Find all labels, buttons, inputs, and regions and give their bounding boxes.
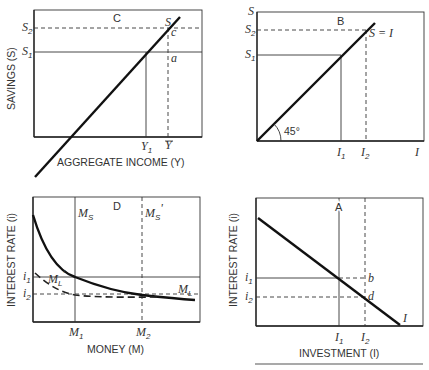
m2-tick-label: M2: [135, 325, 151, 341]
investment-curve-label: I: [402, 311, 408, 325]
angle-arc: [274, 124, 281, 141]
i2-tick-label: i2: [245, 289, 253, 305]
i-axis-end-label: I: [414, 145, 420, 159]
ybar-tick-label: Y: [165, 138, 173, 152]
four-quadrant-diagram: C S c a S2 S1 Y1 Y AGGREGATE INCOME (Y) …: [0, 0, 429, 370]
ml-prime-label: ML': [47, 267, 65, 288]
x-axis-label-investment: INVESTMENT (I): [299, 347, 379, 359]
ml-label: ML: [177, 282, 192, 298]
s1-tick-label: S1: [22, 44, 32, 60]
investment-curve: [258, 218, 400, 325]
y1-tick-label: Y1: [141, 139, 152, 155]
panel-d-letter: D: [113, 200, 121, 212]
panel-d-frame: [33, 197, 200, 322]
I2-tick-label: I2: [360, 330, 370, 346]
s-axis-top-label: S: [248, 4, 254, 18]
point-c-label: c: [171, 25, 177, 39]
x-axis-label-income: AGGREGATE INCOME (Y): [57, 156, 185, 168]
s-equals-i-line: [257, 23, 375, 141]
i2-tick-label: i2: [23, 286, 31, 302]
panel-b-frame: [257, 12, 424, 141]
y-axis-label-interest-a: INTEREST RATE (i): [227, 213, 239, 307]
point-b-label: b: [368, 271, 374, 285]
panel-a-letter: A: [335, 201, 343, 213]
I1-tick-label: I1: [334, 330, 343, 346]
i2-tick-label: I2: [360, 145, 370, 161]
ms-prime-label: MS': [144, 201, 163, 222]
panel-d: D MS MS' ML' ML i1 i2 M1 M2 MONEY (M) IN…: [5, 197, 200, 355]
s1-tick-label: S1: [245, 47, 255, 63]
y-axis-label-interest-d: INTEREST RATE (i): [5, 213, 17, 307]
x-axis-label-money: MONEY (M): [87, 343, 144, 355]
panel-c-frame: [34, 10, 202, 137]
panel-a-frame: [256, 198, 423, 326]
s-equals-i-label: S = I: [369, 26, 394, 40]
panel-a: A b d I i1 i2 I1 I2 INVESTMENT (I) INTER…: [227, 198, 423, 364]
y-axis-label-savings: SAVINGS (S): [5, 47, 17, 110]
i1-tick-label: i1: [23, 269, 31, 285]
panel-b-letter: B: [337, 15, 344, 27]
ms-label: MS: [77, 206, 94, 222]
s2-tick-label: S2: [245, 22, 256, 38]
point-d-label: d: [368, 289, 375, 303]
panel-b: B S = I 45° S S2 S1 I1 I2 I: [245, 4, 424, 161]
savings-curve: [35, 17, 180, 177]
s2-tick-label: S2: [22, 20, 33, 36]
m1-tick-label: M1: [68, 325, 83, 341]
i1-tick-label: i1: [245, 270, 253, 286]
i1-tick-label: I1: [336, 145, 345, 161]
panel-c-letter: C: [113, 12, 121, 24]
panel-c: C S c a S2 S1 Y1 Y AGGREGATE INCOME (Y) …: [5, 10, 202, 177]
angle-label: 45°: [284, 125, 300, 137]
point-a-label: a: [171, 51, 177, 65]
